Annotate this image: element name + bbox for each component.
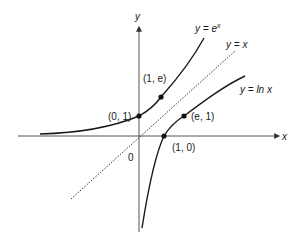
function-graph-diagram: x y 0 y = x y = ex y = ln x (0, 1) (1, e… [0, 0, 302, 240]
point-e-1-label: (e, 1) [191, 111, 214, 122]
exp-curve-label: y = ex [194, 22, 221, 34]
identity-line-label: y = x [225, 39, 248, 50]
point-0-1-label: (0, 1) [108, 111, 131, 122]
x-axis-label: x [281, 131, 288, 142]
point-1-0-label: (1, 0) [172, 142, 195, 153]
log-curve-label: y = ln x [239, 84, 273, 95]
point-1-e-label: (1, e) [143, 73, 166, 84]
point-0-1 [136, 113, 141, 118]
point-1-0 [161, 133, 166, 138]
point-e-1 [181, 113, 186, 118]
axes: x y 0 [18, 11, 288, 232]
point-1-e [158, 94, 163, 99]
origin-label: 0 [128, 152, 134, 163]
y-axis-label: y [134, 11, 141, 22]
